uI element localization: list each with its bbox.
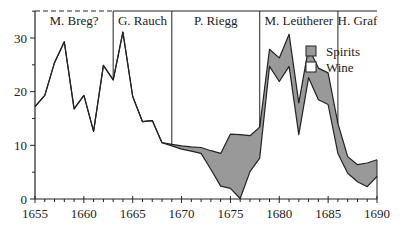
x-tick-label: 1670 (169, 206, 195, 221)
x-tick-label: 1680 (266, 206, 292, 221)
period-label: M. Breg? (50, 13, 99, 28)
x-tick-label: 1655 (22, 206, 48, 221)
y-tick-label: 30 (14, 31, 27, 46)
x-tick-label: 1690 (364, 206, 390, 221)
y-tick-label: 10 (14, 138, 27, 153)
x-tick-label: 1660 (71, 206, 97, 221)
y-tick-label: 0 (21, 192, 28, 207)
y-tick-label: 20 (14, 84, 27, 99)
legend-label-wine: Wine (326, 60, 354, 75)
x-tick-label: 1675 (217, 206, 243, 221)
period-label: P. Riegg (194, 13, 238, 28)
x-tick-label: 1665 (120, 206, 146, 221)
legend-swatch-spirits (306, 46, 316, 56)
period-labels: M. Breg?G. RauchP. RieggM. LeüthererH. G… (50, 13, 378, 28)
x-tick-label: 1685 (315, 206, 341, 221)
chart: M. Breg?G. RauchP. RieggM. LeüthererH. G… (0, 0, 413, 234)
period-label: H. Graf (338, 13, 378, 28)
period-label: M. Leütherer (265, 13, 334, 28)
legend-swatch-wine (306, 62, 316, 72)
legend-label-spirits: Spirits (326, 44, 360, 59)
period-label: G. Rauch (118, 13, 168, 28)
